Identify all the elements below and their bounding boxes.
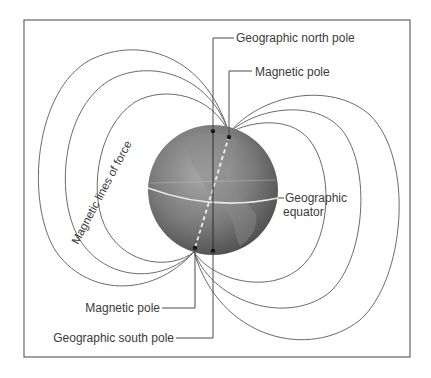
label-geographic-south-pole: Geographic south pole bbox=[53, 331, 174, 345]
earth-globe bbox=[148, 125, 278, 255]
leader-magnetic-south bbox=[162, 248, 195, 308]
magnetic-field-diagram: Geographic north pole Magnetic pole Geog… bbox=[0, 0, 431, 378]
label-geographic-north-pole: Geographic north pole bbox=[236, 31, 355, 45]
label-magnetic-pole-south: Magnetic pole bbox=[85, 301, 160, 315]
label-magnetic-pole-north: Magnetic pole bbox=[255, 65, 330, 79]
label-geographic-equator-2: equator bbox=[283, 205, 324, 219]
label-geographic-equator-1: Geographic bbox=[285, 191, 347, 205]
